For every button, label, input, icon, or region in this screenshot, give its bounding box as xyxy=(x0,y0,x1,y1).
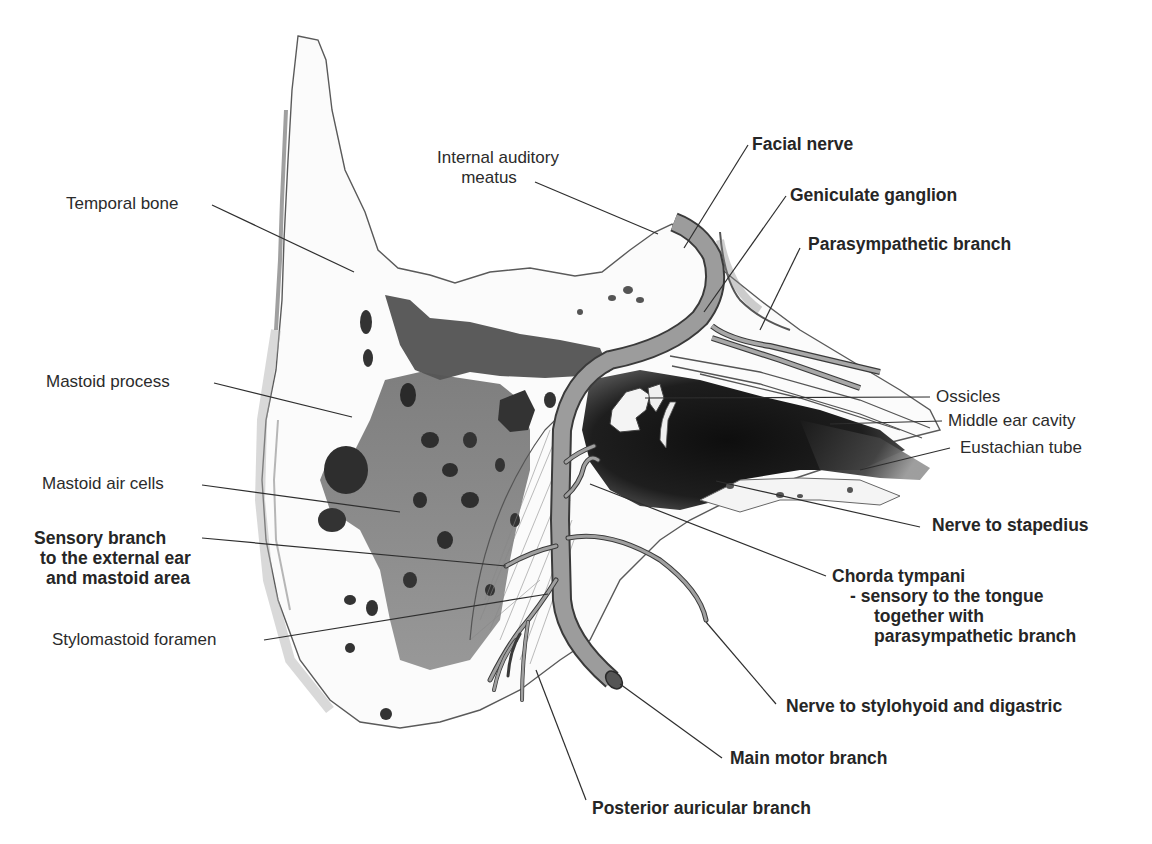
label-line: Internal auditory xyxy=(418,148,578,168)
label-mastoid-process: Mastoid process xyxy=(46,372,170,392)
leader-posterior-auricular-branch xyxy=(536,670,586,800)
label-mastoid-air-cells: Mastoid air cells xyxy=(42,474,164,494)
label-line: meatus xyxy=(418,168,578,188)
label-line: Chorda tympani xyxy=(832,566,1076,586)
label-stylomastoid-foramen: Stylomastoid foramen xyxy=(52,630,216,650)
label-line: together with xyxy=(832,606,1076,626)
label-internal-auditory-meatus: Internal auditory meatus xyxy=(418,148,578,188)
label-nerve-to-stylohyoid: Nerve to stylohyoid and digastric xyxy=(786,696,1062,716)
label-posterior-auricular-branch: Posterior auricular branch xyxy=(592,798,811,818)
leader-facial-nerve xyxy=(684,145,748,248)
label-line: parasympathetic branch xyxy=(832,626,1076,646)
label-main-motor-branch: Main motor branch xyxy=(730,748,888,768)
label-eustachian-tube: Eustachian tube xyxy=(960,438,1082,458)
label-temporal-bone: Temporal bone xyxy=(66,194,178,214)
leader-internal-auditory-meatus xyxy=(535,182,658,234)
label-geniculate-ganglion: Geniculate ganglion xyxy=(790,185,957,205)
label-ossicles: Ossicles xyxy=(936,387,1000,407)
label-parasympathetic-branch: Parasympathetic branch xyxy=(808,234,1011,254)
leader-nerve-to-stylohyoid xyxy=(706,622,776,704)
label-sensory-branch: Sensory branch to the external ear and m… xyxy=(34,528,191,588)
label-line: - sensory to the tongue xyxy=(832,586,1076,606)
label-chorda-tympani: Chorda tympani - sensory to the tongue t… xyxy=(832,566,1076,646)
label-line: and mastoid area xyxy=(34,568,191,588)
label-line: Sensory branch xyxy=(34,528,191,548)
leader-main-motor-branch xyxy=(620,684,722,758)
label-facial-nerve: Facial nerve xyxy=(752,134,853,154)
label-middle-ear-cavity: Middle ear cavity xyxy=(948,411,1076,431)
label-nerve-to-stapedius: Nerve to stapedius xyxy=(932,515,1089,535)
label-line: to the external ear xyxy=(34,548,191,568)
